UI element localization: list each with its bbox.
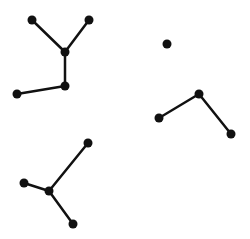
background <box>0 0 250 239</box>
node-n12 <box>45 187 54 196</box>
node-n4 <box>61 82 70 91</box>
node-n5 <box>13 90 22 99</box>
node-n11 <box>20 179 29 188</box>
node-n7 <box>195 90 204 99</box>
node-n13 <box>69 220 78 229</box>
node-n9 <box>227 130 236 139</box>
node-n1 <box>28 16 37 25</box>
node-n10 <box>84 139 93 148</box>
node-n3 <box>61 48 70 57</box>
node-n6 <box>163 40 172 49</box>
node-n8 <box>155 114 164 123</box>
node-n2 <box>85 16 94 25</box>
graph-diagram <box>0 0 250 239</box>
